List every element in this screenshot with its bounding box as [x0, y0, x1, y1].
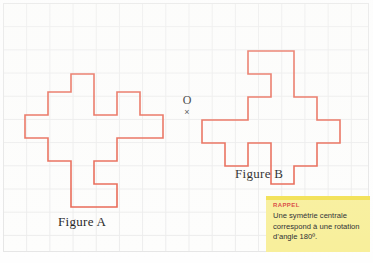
worksheet-page: Figure A O × Figure B RAPPEL Une symétri… — [0, 0, 373, 263]
figure-b-outline — [202, 51, 340, 184]
rappel-content: RAPPEL Une symétrie centrale correspond … — [266, 196, 370, 247]
rappel-callout-box: RAPPEL Une symétrie centrale correspond … — [266, 196, 370, 252]
rappel-text: Une symétrie centrale correspond à une r… — [273, 211, 363, 243]
figure-a-label: Figure A — [58, 214, 106, 230]
figure-a-shape[interactable] — [25, 74, 165, 210]
cross-icon: × — [176, 107, 198, 117]
centre-of-symmetry-marker: O × — [176, 94, 198, 117]
figure-a-outline — [25, 74, 163, 207]
rappel-title: RAPPEL — [273, 202, 363, 208]
figure-b-label: Figure B — [235, 166, 283, 182]
centre-point-label: O — [176, 94, 198, 106]
